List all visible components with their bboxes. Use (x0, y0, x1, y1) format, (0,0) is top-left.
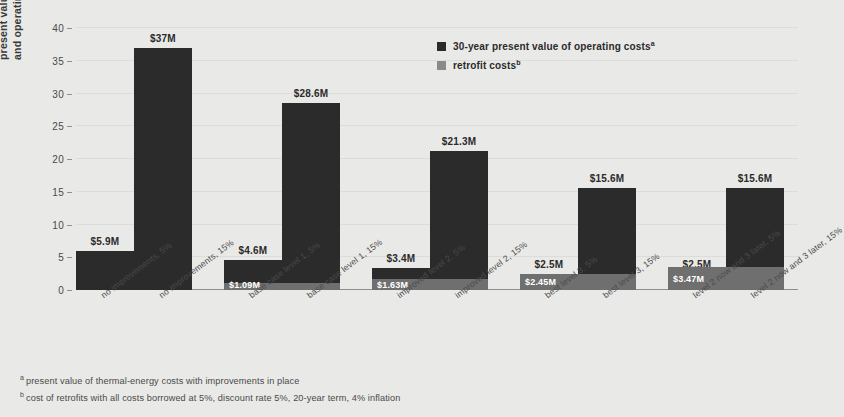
footnote-b-marker: b (20, 391, 24, 398)
y-axis-tick-mark (67, 192, 72, 193)
bar-value-label: $15.6M (738, 173, 773, 184)
bar-value-label: $15.6M (590, 173, 625, 184)
y-axis-tick-label: 35 (52, 55, 64, 66)
y-axis-tick-mark (67, 159, 72, 160)
bar-value-label: $3.4M (387, 253, 416, 264)
y-axis-tick-label: 40 (52, 23, 64, 34)
y-axis-tick-label: 5 (58, 252, 64, 263)
bar-value-label: $21.3M (442, 136, 477, 147)
footnote-a: apresent value of thermal-energy costs w… (20, 374, 400, 386)
legend-label-operating-costs-text: 30-year present value of operating costs (453, 41, 651, 52)
y-axis-tick-labels: 4035302520151050 (0, 28, 76, 290)
y-axis-tick-label: 15 (52, 186, 64, 197)
bar-value-label: $2.5M (535, 259, 564, 270)
footnote-a-text: present value of thermal-energy costs wi… (26, 376, 299, 386)
legend-item-operating-costs: 30-year present value of operating costs… (437, 40, 655, 52)
y-axis-tick-mark (67, 225, 72, 226)
y-axis-tick-mark (67, 257, 72, 258)
legend-swatch-operating-costs (437, 42, 446, 51)
footnote-b: bcost of retrofits with all costs borrow… (20, 391, 400, 403)
footnotes: apresent value of thermal-energy costs w… (20, 374, 400, 408)
bar-value-label: $37M (150, 33, 176, 44)
y-axis-tick-mark (67, 290, 72, 291)
y-axis-tick-mark (67, 94, 72, 95)
footnote-a-marker: a (20, 374, 24, 381)
retrofit-value-label: $3.47M (673, 274, 704, 284)
y-axis-tick-mark (67, 61, 72, 62)
y-axis-tick-mark (67, 28, 72, 29)
legend-swatch-retrofit-costs (437, 61, 446, 70)
bar-value-label: $5.9M (91, 236, 120, 247)
y-axis-tick-label: 10 (52, 219, 64, 230)
legend-marker-b: b (516, 59, 520, 66)
y-axis-tick-mark (67, 126, 72, 127)
y-axis-tick-label: 20 (52, 154, 64, 165)
legend-label-retrofit-costs-text: retrofit costs (453, 61, 516, 72)
gridline (76, 27, 798, 28)
footnote-b-text: cost of retrofits with all costs borrowe… (26, 393, 400, 403)
legend-label-operating-costs: 30-year present value of operating costs… (453, 40, 655, 52)
y-axis-tick-label: 30 (52, 88, 64, 99)
legend-item-retrofit-costs: retrofit costsb (437, 59, 655, 71)
legend-label-retrofit-costs: retrofit costsb (453, 59, 521, 71)
x-axis-tick-labels: no improvements, 5%no improvements, 15%b… (0, 292, 813, 377)
legend: 30-year present value of operating costs… (437, 40, 655, 79)
bar-value-label: $28.6M (294, 88, 329, 99)
legend-marker-a: a (651, 40, 655, 47)
y-axis-tick-label: 25 (52, 121, 64, 132)
bar-value-label: $4.6M (239, 245, 268, 256)
